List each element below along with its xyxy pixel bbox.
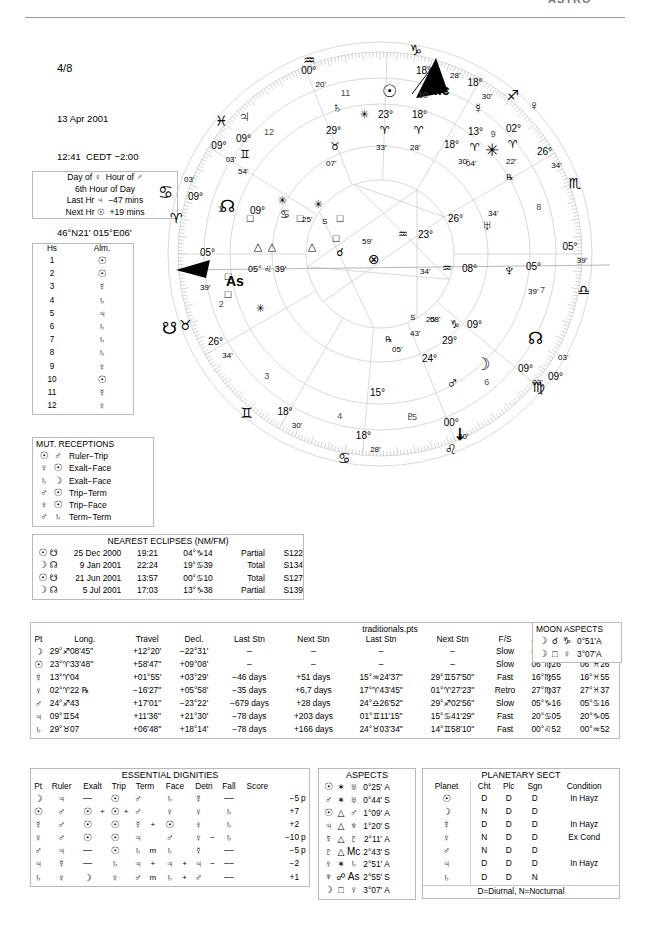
sect-table: PlanetChtPlcSgnCondition ☉DDDIn Hayz☽NDD… [423, 781, 619, 884]
traditionals-row: ♃09°♊54+11'36"+21°30'−78 days+203 days01… [31, 710, 619, 723]
traditionals-longitude: 29°♐08'45" [46, 645, 124, 658]
traditionals-contra-antiscia: 20°♑05 [570, 710, 619, 723]
dignity-fall-mark [240, 792, 275, 805]
aspect-planet-a-glyph: ☉ [322, 781, 335, 794]
planet-uranus-minute: 34' [488, 209, 499, 218]
planet-mars-glyph: ♂ [446, 373, 459, 392]
dignity-peregrine [301, 871, 309, 884]
traditionals-next-stn: 29°♐02'56" [417, 697, 488, 710]
sect-col-3: Sgn [520, 781, 549, 792]
dignity-score: −5 [275, 844, 301, 857]
almuten-house: 2 [33, 267, 71, 280]
traditionals-declination: +18°14' [171, 723, 218, 736]
eclipse-body-glyph: ☉ [37, 547, 48, 559]
traditionals-travel: +12°20' [124, 645, 171, 658]
dignity-peregrine: p [301, 831, 309, 844]
traditionals-contra-antiscia: 27°♓37 [570, 684, 619, 697]
cusp-2-degree: 26° [208, 336, 223, 347]
traditionals-fast-slow: Fast [488, 671, 522, 684]
dignity-term-glyph: ♂ [130, 871, 146, 884]
almuten-house: 6 [33, 320, 71, 333]
dignities-table: PtRulerExaltTripTermFaceDetriFallScore ☽… [31, 781, 309, 884]
eclipse-saros: S122 [275, 547, 303, 559]
inner-aspect-symbol-8: □ [333, 232, 340, 244]
reception-planet-a-glyph: ♄ [37, 475, 51, 487]
cusp-7-minute: 39' [577, 256, 588, 265]
traditionals-planet-glyph: ♂ [31, 697, 46, 710]
dignity-term-mark [146, 792, 160, 805]
traditionals-fast-slow: Slow [488, 697, 522, 710]
planet-jupiter-glyph: ♃ [238, 107, 251, 126]
cusp-7-degree: 05° [562, 241, 577, 252]
sect-col-2: Plc [497, 781, 520, 792]
almuten-row: 9♀ [33, 360, 133, 373]
dignity-detriment-glyph: ♀ [190, 818, 207, 831]
eclipse-node-glyph: ☊ [48, 584, 59, 596]
aspect-planet-b-glyph: ♅ [347, 794, 360, 807]
eclipse-position: 13°♑38 [170, 584, 227, 596]
dignity-detriment-glyph: ♀ [190, 805, 207, 818]
sect-planet-glyph: ♂ [423, 844, 471, 857]
dignity-face-glyph: ☉ [160, 818, 180, 831]
moon-aspect-applying: A [596, 635, 602, 648]
planet-neptune-minute: 39' [528, 287, 539, 296]
sect-row: ☽NDD [423, 805, 619, 818]
aspect-planet-a-glyph: ♂ [322, 794, 335, 807]
traditionals-declination: −23°22' [171, 697, 218, 710]
eclipses-title: NEAREST ECLIPSES (NM/FM) [33, 535, 303, 547]
north-node-sign: ♑ [450, 318, 460, 330]
aspect-applying: S [382, 820, 392, 833]
dignity-peregrine [301, 818, 309, 831]
eclipse-time: 22:24 [129, 559, 170, 571]
cusp-12-degree: 09° [211, 140, 226, 151]
dignity-exalt-glyph: –– [78, 792, 98, 805]
north-node-s: S [410, 313, 415, 322]
traditionals-last-stn: 15°♒24'37" [345, 671, 416, 684]
dignity-fall-glyph: –– [218, 857, 240, 870]
planet-chiron-glyph: ✳ [485, 141, 499, 160]
dignity-fall-mark [240, 844, 275, 857]
inner-aspect-symbol-2: □ [297, 212, 304, 224]
traditionals-antiscia: 20°♋05 [522, 710, 571, 723]
mc-sign: ♈ [414, 124, 424, 136]
reception-planet-a-glyph: ♂ [37, 487, 51, 499]
watermark: ASTRO [548, 0, 638, 14]
cusp-5-degree: 00° [444, 417, 459, 428]
almuten-house: 5 [33, 307, 71, 320]
aspect-orb: 0°25' [360, 781, 382, 794]
moon-aspect-body-glyph: ☽ [537, 635, 549, 648]
aspect-planet-a-glyph: ♆ [322, 871, 335, 884]
almuten-house: 3 [33, 280, 71, 293]
dignities-col-8: Score [240, 781, 275, 792]
moon-aspect-symbol: ☌ [549, 635, 561, 648]
traditionals-declination: +21°30' [171, 710, 218, 723]
aspect-symbol: △ [335, 833, 347, 846]
inner-aspect-symbol-0: ✳ [277, 194, 286, 206]
planet-neptune-extra: 34' [420, 267, 431, 276]
mutual-reception-row: ♂♄Term−Term [37, 511, 111, 523]
inner-aspect-symbol-10: □ [225, 288, 232, 300]
lilith-minute: 03' [184, 175, 195, 184]
dignity-exalt-mark [97, 857, 107, 870]
cusp-5-minute: 20' [458, 432, 469, 441]
reception-kind: Term−Term [65, 511, 111, 523]
moon-aspects-table: ☽☌♑0°51'A☽□♀3°07'A [537, 635, 602, 660]
traditionals-contra-antiscia: 00°♒52 [570, 723, 619, 736]
eclipse-node-glyph: ☋ [48, 572, 59, 584]
sect-chart: D [471, 792, 498, 805]
aspect-symbol: ✶ [335, 794, 347, 807]
reception-planet-b-glyph: ☉ [51, 487, 65, 499]
lilith-sign: ♋ [280, 208, 290, 220]
inner-aspect-symbol-6: △ [268, 240, 277, 252]
traditionals-col-8: F/S [488, 634, 522, 645]
dignity-trip-mark [122, 844, 130, 857]
planet-uranus-glyph: ♅ [482, 217, 493, 233]
traditionals-planet-glyph: ♀ [31, 684, 46, 697]
astrology-chart-wheel[interactable]: ♈♉♊♋♌♍♎♏♐♑♒♓ 123456789101112 As 05° 39' … [140, 22, 620, 492]
dignity-fall-glyph: ♄ [218, 805, 240, 818]
sect-planet-glyph: ♃ [423, 857, 471, 870]
dignity-term-glyph: ♃ [130, 831, 146, 844]
sect-row: ☉DDDIn Hayz [423, 792, 619, 805]
dignity-planet-glyph: ☽ [31, 792, 46, 805]
aspect-orb: 1°20' [360, 820, 382, 833]
